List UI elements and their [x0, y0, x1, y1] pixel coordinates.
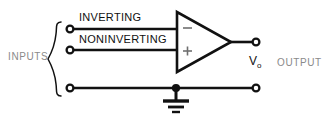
- noninverting-input-terminal: [67, 47, 74, 54]
- noninverting-input-label: NONINVERTING: [79, 34, 167, 45]
- output-voltage-label: Vo: [249, 55, 261, 70]
- ground-symbol: [163, 88, 189, 112]
- op-amp-circuit-diagram: INVERTING NONINVERTING INPUTS Vo OUTPUT: [0, 0, 328, 118]
- output-wire: [230, 39, 259, 46]
- inputs-label: INPUTS: [8, 52, 48, 62]
- noninverting-input-wire: [67, 47, 177, 54]
- output-label: OUTPUT: [277, 58, 322, 68]
- output-voltage-symbol: V: [249, 54, 257, 68]
- ground-rail-right-terminal: [253, 85, 260, 92]
- inverting-input-terminal: [67, 26, 74, 33]
- output-voltage-subscript: o: [257, 61, 261, 70]
- op-amp-triangle: [177, 12, 231, 72]
- ground-input-terminal: [67, 85, 74, 92]
- inputs-brace: [48, 22, 61, 96]
- inverting-input-label: INVERTING: [79, 12, 141, 23]
- ground-rail-wire: [67, 84, 260, 92]
- output-terminal: [253, 39, 260, 46]
- inverting-input-wire: [67, 26, 177, 33]
